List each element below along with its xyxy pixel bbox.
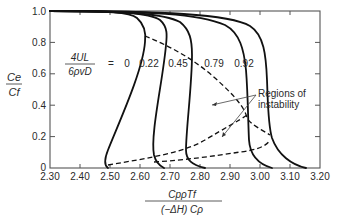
series-label-0.79: 0.79	[204, 58, 224, 69]
curve-0.22	[50, 11, 167, 168]
svg-text:(−ΔH) Cρ: (−ΔH) Cρ	[161, 204, 203, 215]
svg-text:2.70: 2.70	[160, 171, 180, 182]
curve-0.79	[50, 11, 272, 168]
svg-text:2.50: 2.50	[100, 171, 120, 182]
svg-text:0.2: 0.2	[32, 131, 46, 142]
svg-text:Regions of: Regions of	[258, 88, 306, 99]
x-tick-labels: 2.30 2.40 2.50 2.60 2.70 2.80 2.90 3.00 …	[40, 171, 330, 182]
svg-text:=: =	[108, 58, 114, 69]
svg-text:Ce: Ce	[7, 71, 21, 83]
svg-text:0.4: 0.4	[32, 100, 46, 111]
series-label-0.22: 0.22	[139, 58, 159, 69]
y-tick-labels: 0 0.2 0.4 0.6 0.8 1.0	[32, 6, 46, 174]
parameter-legend: 4UL 6ρvD = 0 0.22 0.45 0.79 0.92	[65, 52, 254, 77]
svg-text:3.20: 3.20	[310, 171, 330, 182]
svg-text:2.90: 2.90	[220, 171, 240, 182]
chart: 2.30 2.40 2.50 2.60 2.70 2.80 2.90 3.00 …	[0, 0, 338, 222]
svg-text:2.40: 2.40	[70, 171, 90, 182]
instability-annotation: Regions of instability	[212, 88, 306, 137]
series-label-0.92: 0.92	[234, 58, 254, 69]
svg-text:instability: instability	[258, 99, 299, 110]
curve-0	[50, 11, 145, 168]
svg-text:4UL: 4UL	[71, 52, 89, 63]
series-label-0.45: 0.45	[168, 58, 188, 69]
svg-text:6ρvD: 6ρvD	[68, 66, 92, 77]
curve-0.45	[50, 11, 205, 168]
y-axis-label: Ce Cf	[6, 71, 22, 98]
svg-text:0.6: 0.6	[32, 68, 46, 79]
svg-text:Cf: Cf	[9, 86, 21, 98]
svg-text:3.00: 3.00	[250, 171, 270, 182]
svg-text:3.10: 3.10	[280, 171, 300, 182]
svg-text:0: 0	[40, 162, 46, 173]
svg-text:0.8: 0.8	[32, 37, 46, 48]
svg-text:2.80: 2.80	[190, 171, 210, 182]
svg-text:1.0: 1.0	[32, 6, 46, 17]
svg-text:CpρTf: CpρTf	[168, 189, 197, 200]
svg-text:2.60: 2.60	[130, 171, 150, 182]
series-label-0: 0	[124, 58, 130, 69]
x-axis-label: CpρTf (−ΔH) Cρ	[145, 189, 222, 215]
